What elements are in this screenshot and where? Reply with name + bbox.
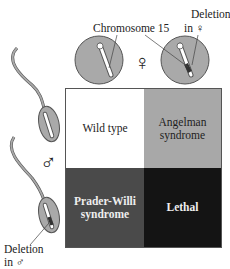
- chromosome-label: Chromosome 15: [93, 22, 169, 35]
- cell-label: Angelmansyndrome: [159, 116, 207, 142]
- cell-label: Prader-Willisyndrome: [74, 195, 136, 221]
- cell-lethal: Lethal: [144, 168, 221, 247]
- deletion-female-label-2: in ♀: [184, 22, 204, 35]
- sperm-normal-icon: [13, 48, 63, 144]
- cell-label: Wild type: [82, 122, 127, 135]
- deletion-male-label-1: Deletion: [4, 243, 44, 256]
- cell-angelman: Angelmansyndrome: [144, 89, 221, 168]
- punnett-grid: Wild type Angelmansyndrome Prader-Willis…: [65, 88, 222, 248]
- egg-deletion-icon: [161, 36, 209, 84]
- deletion-male-label-2: in ♂: [4, 256, 24, 269]
- cell-label: Lethal: [167, 201, 199, 214]
- cell-prader-willi: Prader-Willisyndrome: [66, 168, 144, 247]
- cell-wild-type: Wild type: [66, 89, 144, 168]
- male-symbol: ♂: [40, 152, 57, 174]
- egg-normal-icon: [75, 36, 123, 84]
- female-symbol: ♀: [134, 52, 151, 74]
- deletion-female-label-1: Deletion: [191, 8, 230, 21]
